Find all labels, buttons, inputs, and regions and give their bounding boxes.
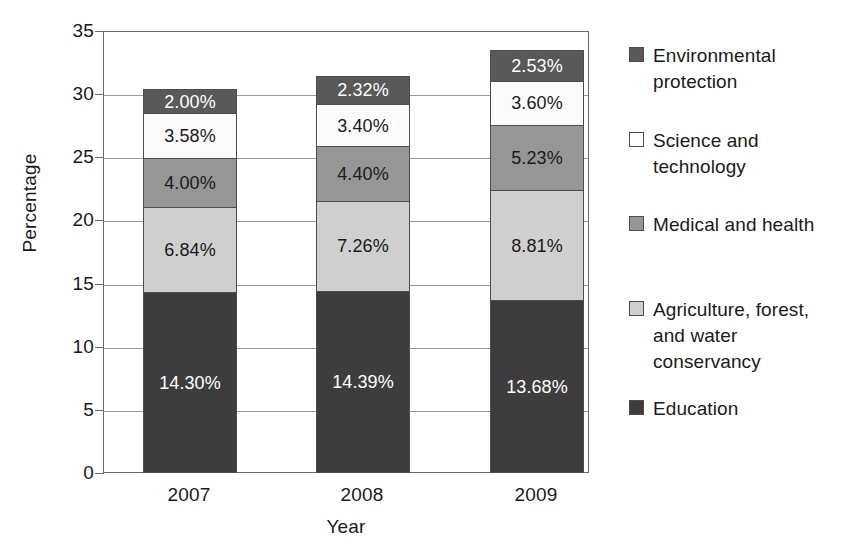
x-axis-title: Year (103, 516, 589, 538)
bar-segment[interactable]: 8.81% (490, 190, 584, 301)
legend-item-label: Environmental protection (653, 43, 845, 95)
legend-item[interactable]: Agriculture, forest, and water conservan… (629, 297, 845, 375)
bar-segment[interactable]: 4.00% (143, 158, 237, 209)
bar-segment[interactable]: 2.32% (316, 76, 410, 105)
bar-segment-value-label: 8.81% (511, 237, 563, 255)
bar-segment-value-label: 2.32% (337, 81, 389, 99)
bar-segment-value-label: 14.39% (332, 373, 394, 391)
y-axis-title: Percentage (19, 113, 41, 293)
x-tick-label-2008: 2008 (292, 484, 432, 506)
y-tick-label: 30 (46, 84, 94, 103)
bar-segment[interactable]: 7.26% (316, 201, 410, 293)
bar-segment[interactable]: 6.84% (143, 207, 237, 293)
y-tick-label: 20 (46, 210, 94, 229)
legend-item-label: Science and technology (653, 128, 845, 180)
y-tick-label: 25 (46, 147, 94, 166)
bar-2009[interactable]: 2.53%3.60%5.23%8.81%13.68% (490, 50, 584, 472)
bar-segment-value-label: 4.00% (164, 174, 216, 192)
legend-swatch-icon (629, 216, 644, 231)
legend-item-label: Education (653, 396, 738, 422)
legend-item[interactable]: Science and technology (629, 128, 845, 180)
legend-item-label: Medical and health (653, 212, 814, 238)
bar-segment-value-label: 7.26% (337, 237, 389, 255)
y-tick-label: 5 (46, 400, 94, 419)
bar-segment[interactable]: 3.58% (143, 113, 237, 158)
bar-segment-value-label: 3.60% (511, 94, 563, 112)
bar-2008[interactable]: 2.32%3.40%4.40%7.26%14.39% (316, 76, 410, 472)
bar-segment-value-label: 6.84% (164, 241, 216, 259)
bar-segment-value-label: 4.40% (337, 165, 389, 183)
bar-segment-value-label: 5.23% (511, 149, 563, 167)
y-tick-label: 10 (46, 337, 94, 356)
y-tick-label: 35 (46, 21, 94, 40)
legend-item[interactable]: Medical and health (629, 212, 814, 238)
bar-segment-value-label: 13.68% (506, 378, 568, 396)
bar-segment[interactable]: 3.40% (316, 104, 410, 147)
bar-segment-value-label: 3.40% (337, 117, 389, 135)
x-tick-label-2007: 2007 (119, 484, 259, 506)
bar-segment-value-label: 14.30% (159, 374, 221, 392)
bar-segment-value-label: 2.53% (511, 57, 563, 75)
plot-area: 2.00%3.58%4.00%6.84%14.30%2.32%3.40%4.40… (103, 31, 589, 473)
legend-swatch-icon (629, 301, 644, 316)
bar-segment[interactable]: 3.60% (490, 81, 584, 126)
y-tick-label: 15 (46, 274, 94, 293)
legend-swatch-icon (629, 132, 644, 147)
x-tick-label-2009: 2009 (466, 484, 606, 506)
legend-swatch-icon (629, 400, 644, 415)
bar-segment[interactable]: 14.30% (143, 292, 237, 473)
bar-segment[interactable]: 4.40% (316, 146, 410, 202)
bar-segment[interactable]: 5.23% (490, 125, 584, 191)
y-tick-mark (95, 473, 104, 474)
legend-item-label: Agriculture, forest, and water conservan… (653, 297, 845, 375)
bar-segment-value-label: 3.58% (164, 127, 216, 145)
bar-segment[interactable]: 13.68% (490, 300, 584, 473)
bar-segment[interactable]: 2.00% (143, 89, 237, 114)
y-tick-label: 0 (46, 463, 94, 482)
bar-segment[interactable]: 2.53% (490, 50, 584, 82)
legend-item[interactable]: Environmental protection (629, 43, 845, 95)
bar-segment-value-label: 2.00% (164, 93, 216, 111)
bar-segment[interactable]: 14.39% (316, 291, 410, 473)
bar-2007[interactable]: 2.00%3.58%4.00%6.84%14.30% (143, 89, 237, 472)
stacked-bar-chart: Percentage 05101520253035 2.00%3.58%4.00… (0, 0, 856, 556)
legend-item[interactable]: Education (629, 396, 738, 422)
legend-swatch-icon (629, 47, 644, 62)
